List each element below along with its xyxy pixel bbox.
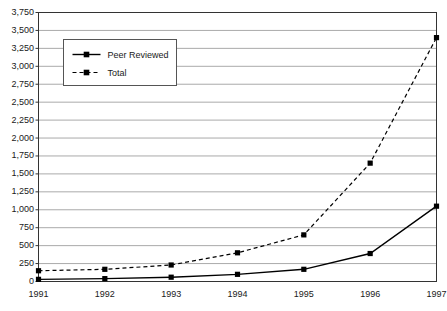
x-axis-tick-label: 1997 — [426, 290, 446, 299]
x-axis-tick-label: 1993 — [161, 290, 181, 299]
x-axis-tick-label: 1991 — [28, 290, 48, 299]
x-axis-tick-label: 1995 — [294, 290, 314, 299]
x-axis-tick-label: 1992 — [95, 290, 115, 299]
line-chart: 02505007501,0001,2501,5001,7502,0002,250… — [0, 0, 447, 311]
x-axis-tick-label: 1994 — [227, 290, 247, 299]
x-axis-tick-label: 1996 — [360, 290, 380, 299]
x-axis: 1991199219931994199519961997 — [0, 0, 447, 311]
